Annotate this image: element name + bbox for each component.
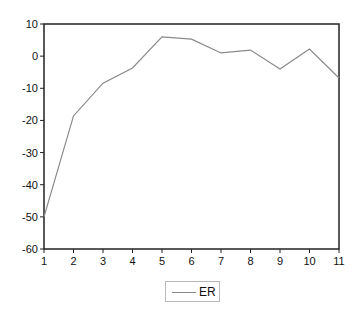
legend: ER — [165, 281, 220, 302]
x-tick-label: 10 — [303, 255, 315, 267]
y-tick-label: -10 — [22, 82, 38, 94]
x-tick-label: 8 — [247, 255, 253, 267]
series-line — [44, 37, 339, 217]
y-tick-label: -20 — [22, 114, 38, 126]
x-tick-label: 4 — [129, 255, 135, 267]
x-tick-label: 2 — [70, 255, 76, 267]
x-axis: 1234567891011 — [41, 249, 345, 267]
y-tick-label: -40 — [22, 179, 38, 191]
y-tick-label: -30 — [22, 147, 38, 159]
y-axis: 100-10-20-30-40-50-60 — [22, 18, 44, 255]
x-tick-label: 7 — [218, 255, 224, 267]
x-tick-label: 6 — [188, 255, 194, 267]
y-tick-label: 10 — [26, 18, 38, 30]
y-tick-label: -60 — [22, 243, 38, 255]
plot-frame — [44, 24, 339, 249]
y-tick-label: -50 — [22, 211, 38, 223]
legend-line-swatch — [172, 292, 196, 293]
y-tick-label: 0 — [32, 50, 38, 62]
x-tick-label: 3 — [100, 255, 106, 267]
x-tick-label: 9 — [277, 255, 283, 267]
x-tick-label: 5 — [159, 255, 165, 267]
line-chart: 100-10-20-30-40-50-60 1234567891011 — [0, 0, 359, 319]
plot-border — [44, 24, 339, 249]
x-tick-label: 1 — [41, 255, 47, 267]
x-tick-label: 11 — [333, 255, 344, 267]
series-er — [44, 37, 339, 217]
legend-label-er: ER — [199, 285, 216, 299]
